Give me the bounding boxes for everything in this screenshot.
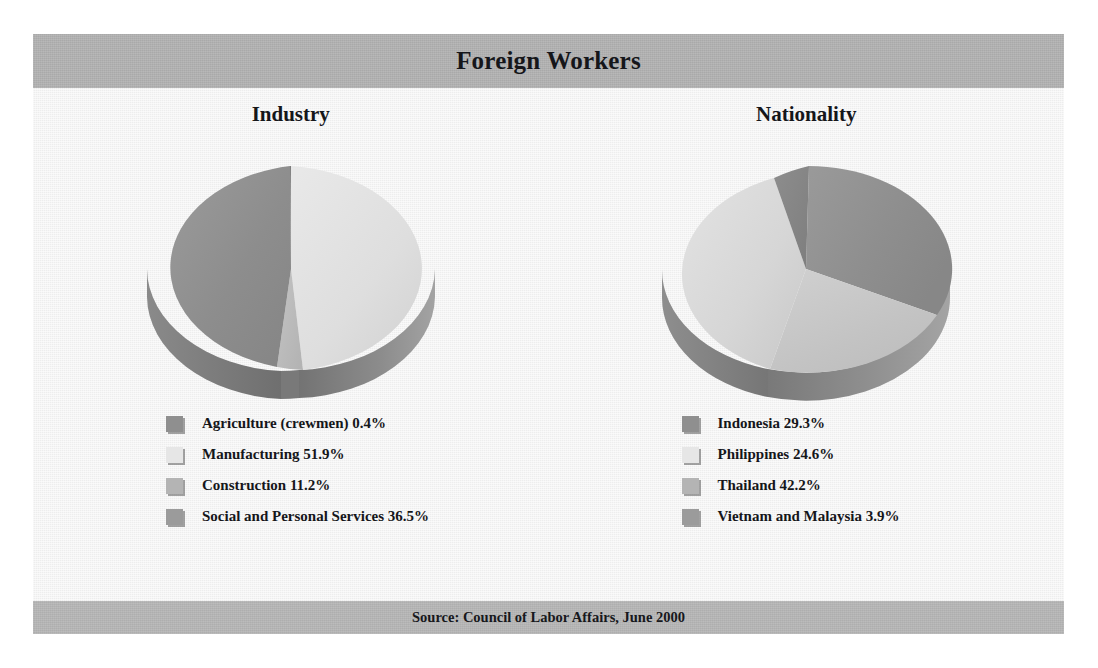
figure-header-band: Foreign Workers [33, 34, 1064, 88]
legend-label: Philippines 24.6% [718, 446, 835, 463]
pie-stage-industry [131, 140, 451, 398]
pie-stage-nationality [646, 140, 966, 398]
legend-swatch-icon [166, 478, 183, 494]
source-note: Source: Council of Labor Affairs, June 2… [412, 609, 685, 626]
legend-item[interactable]: Agriculture (crewmen) 0.4% [166, 408, 386, 439]
legend-nationality: Indonesia 29.3% Philippines 24.6% Thaila… [549, 408, 1065, 532]
pie-svg-industry [131, 140, 451, 398]
legend-item[interactable]: Construction 11.2% [166, 470, 330, 501]
legend-item[interactable]: Philippines 24.6% [682, 439, 835, 470]
page-title: Foreign Workers [456, 47, 641, 75]
legend-item[interactable]: Indonesia 29.3% [682, 408, 826, 439]
pie-chart-industry [131, 140, 451, 398]
legend-label: Agriculture (crewmen) 0.4% [202, 415, 386, 432]
legend-item[interactable]: Manufacturing 51.9% [166, 439, 345, 470]
legend-swatch-icon [166, 416, 183, 432]
legend-item[interactable]: Social and Personal Services 36.5% [166, 501, 429, 532]
pie-svg-nationality [646, 140, 966, 398]
legend-label: Social and Personal Services 36.5% [202, 508, 429, 525]
legend-label: Construction 11.2% [202, 477, 330, 494]
legend-swatch-icon [166, 447, 183, 463]
legend-swatch-icon [166, 509, 183, 525]
chart-title-nationality: Nationality [549, 102, 1065, 127]
chart-panel-industry: Industry [33, 88, 549, 601]
legend-swatch-icon [682, 416, 699, 432]
figure-panel: Foreign Workers Industry [33, 34, 1064, 634]
legend-label: Vietnam and Malaysia 3.9% [718, 508, 900, 525]
legend-item[interactable]: Thailand 42.2% [682, 470, 821, 501]
chart-panel-nationality: Nationality [549, 88, 1065, 601]
legend-industry: Agriculture (crewmen) 0.4% Manufacturing… [33, 408, 549, 532]
legend-item[interactable]: Vietnam and Malaysia 3.9% [682, 501, 900, 532]
figure-footer-band: Source: Council of Labor Affairs, June 2… [33, 601, 1064, 634]
pie-rim-construction-industry [281, 370, 299, 399]
legend-label: Thailand 42.2% [718, 477, 821, 494]
charts-container: Industry [33, 88, 1064, 601]
pie-slice-social-personal-services [170, 166, 291, 367]
pie-chart-nationality [646, 140, 966, 398]
chart-title-industry: Industry [33, 102, 549, 127]
legend-swatch-icon [682, 447, 699, 463]
legend-swatch-icon [682, 509, 699, 525]
legend-label: Manufacturing 51.9% [202, 446, 345, 463]
legend-label: Indonesia 29.3% [718, 415, 826, 432]
legend-swatch-icon [682, 478, 699, 494]
